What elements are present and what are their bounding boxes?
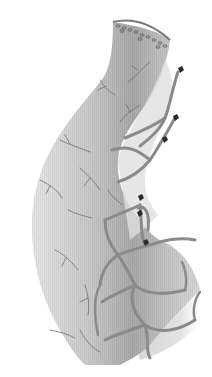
bowel-illustration: Illustration of a curved intestinal segm… — [0, 0, 212, 377]
bowel-drawing — [0, 0, 212, 377]
